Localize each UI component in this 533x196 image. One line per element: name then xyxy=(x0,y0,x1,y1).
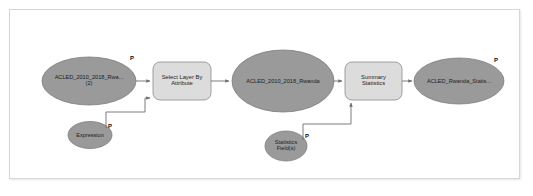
node-expression[interactable] xyxy=(68,122,112,149)
connector-expression-to-select xyxy=(106,98,150,128)
param-badge-statistics-fields: P xyxy=(305,133,309,139)
node-select-layer-by-attribute[interactable] xyxy=(153,62,211,100)
node-statistics-fields[interactable] xyxy=(265,131,307,161)
model-diagram-graphics xyxy=(0,0,533,196)
node-output-table[interactable] xyxy=(414,58,504,104)
connector-statistics-fields-to-summary xyxy=(303,103,351,140)
param-badge-expression: P xyxy=(108,123,112,129)
param-badge-output-table: P xyxy=(494,57,498,63)
node-summary-statistics[interactable] xyxy=(345,62,402,100)
model-canvas: ACLED_2010_2018_Rwa... (2) Select Layer … xyxy=(0,0,533,196)
node-selected-layer[interactable] xyxy=(232,50,334,112)
param-badge-input-layer: P xyxy=(130,55,134,61)
node-input-layer[interactable] xyxy=(42,57,136,105)
